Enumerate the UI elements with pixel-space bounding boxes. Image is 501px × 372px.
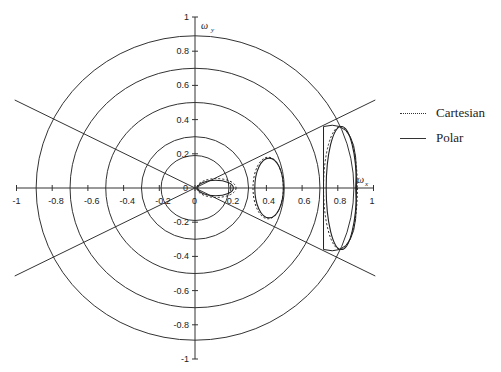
x-tick-label: -0.6	[84, 196, 100, 206]
dotted-line-icon	[400, 113, 426, 114]
y-tick-label: 0.4	[176, 115, 189, 125]
y-tick-label: -0.2	[173, 217, 189, 227]
y-axis-subscript: y	[210, 26, 215, 34]
y-tick-label: 0	[183, 183, 188, 193]
x-tick-label: 0.8	[334, 196, 347, 206]
legend: Cartesian Polar	[400, 103, 485, 153]
legend-item-polar: Polar	[400, 128, 485, 148]
y-tick-label: 1	[184, 12, 189, 22]
legend-item-cartesian: Cartesian	[400, 103, 485, 123]
x-tick-label: -0.2	[155, 196, 171, 206]
x-tick-label: -1	[13, 196, 21, 206]
legend-label-cartesian: Cartesian	[436, 105, 485, 121]
y-tick-label: 0.8	[176, 46, 189, 56]
legend-label-polar: Polar	[436, 130, 463, 146]
y-tick-label: -0.8	[173, 320, 189, 330]
y-tick-label: -0.4	[173, 251, 189, 261]
solid-line-icon	[400, 138, 426, 139]
x-tick-label: -0.4	[120, 196, 136, 206]
x-tick-label: 0.4	[262, 196, 275, 206]
x-tick-label: 0	[192, 196, 197, 206]
x-tick-label: 0.2	[227, 196, 240, 206]
x-tick-label: 0.6	[298, 196, 311, 206]
y-tick-label: -1	[181, 354, 189, 364]
y-tick-label: 0.6	[176, 80, 189, 90]
x-axis-subscript: x	[364, 180, 369, 188]
y-axis-label: ω	[201, 20, 208, 31]
x-axis-label: ω	[357, 174, 364, 185]
y-tick-label: -0.6	[173, 286, 189, 296]
y-tick-label: 0.2	[176, 149, 189, 159]
polar-frequency-plot: -1-0.8-0.6-0.4-0.200.20.40.60.81-1-0.8-0…	[0, 0, 501, 372]
x-tick-label: 1	[370, 196, 375, 206]
x-tick-label: -0.8	[48, 196, 64, 206]
